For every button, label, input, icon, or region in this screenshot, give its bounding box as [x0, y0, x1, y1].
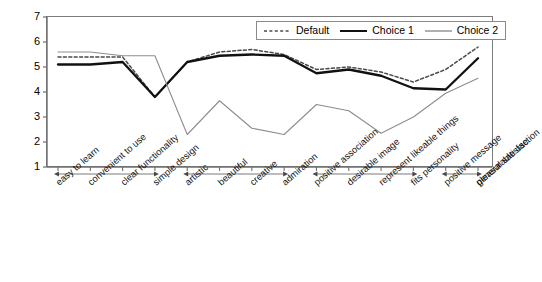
group-arrow-head-left — [442, 171, 447, 176]
series-layer — [58, 47, 478, 135]
group-arrow-head-right — [477, 171, 482, 176]
group-arrow-head-left — [312, 171, 317, 176]
legend-item-default: Default — [264, 25, 329, 36]
legend-swatch-thin-solid-icon — [425, 27, 452, 35]
group-arrow-layer — [54, 171, 482, 176]
y-axis-tick-label: 1 — [18, 161, 40, 172]
y-axis-tick-label: 3 — [18, 111, 40, 122]
legend-swatch-thick-solid-icon — [340, 27, 367, 35]
legend-label-choice-1: Choice 1 — [372, 25, 413, 36]
y-axis-tick-label: 2 — [18, 136, 40, 147]
group-arrow-head-right — [412, 171, 417, 176]
legend-label-default: Default — [296, 25, 329, 36]
y-axis-tick-label: 7 — [18, 11, 40, 22]
group-arrow-head-left — [54, 171, 59, 176]
group-arrow-head-left — [183, 171, 188, 176]
legend-item-choice-2: Choice 2 — [425, 25, 498, 36]
group-arrow-head-right — [283, 171, 288, 176]
y-axis-tick-label: 6 — [18, 36, 40, 47]
series-line-choice-1 — [58, 55, 478, 98]
legend-item-choice-1: Choice 1 — [340, 25, 413, 36]
axis-layer — [43, 17, 492, 171]
group-arrow-head-right — [154, 171, 159, 176]
legend-label-choice-2: Choice 2 — [457, 25, 498, 36]
series-line-choice-2 — [58, 52, 478, 135]
y-axis-tick-label: 4 — [18, 86, 40, 97]
chart-legend: Default Choice 1 Choice 2 — [256, 21, 506, 40]
y-axis-tick-label: 5 — [18, 61, 40, 72]
legend-swatch-dotted-icon — [264, 27, 291, 35]
